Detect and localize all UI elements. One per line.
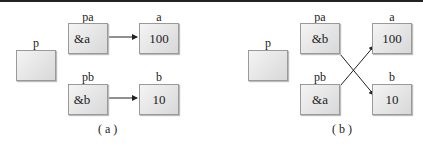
b-value: 10 [153, 92, 166, 108]
pb-box: &b [68, 84, 108, 115]
p-box [16, 50, 56, 81]
pa-box-b: &b [300, 23, 340, 54]
caption-b: ( b ) [332, 122, 352, 137]
a-box: 100 [139, 23, 179, 54]
b-label-b: b [372, 70, 412, 85]
pointer-swap-diagram: p pa &a a 100 pb &b b 10 ( a ) p pa &b a… [0, 0, 423, 148]
pb-label-b: pb [300, 70, 340, 85]
p-box-b [248, 50, 288, 81]
pb-label: pb [68, 70, 108, 85]
pa-box: &a [68, 23, 108, 54]
a-value-b: 100 [382, 31, 402, 47]
pb-box-b: &a [300, 84, 340, 115]
p-label-b: p [248, 36, 288, 51]
a-box-b: 100 [372, 23, 412, 54]
p-label: p [16, 36, 56, 51]
b-box: 10 [139, 84, 179, 115]
pb-value: &b [74, 92, 91, 108]
pb-value-b: &a [312, 92, 328, 108]
b-label: b [139, 70, 179, 85]
a-value: 100 [149, 31, 169, 47]
arrows [0, 0, 423, 148]
caption-a: ( a ) [98, 122, 117, 137]
pa-value-b: &b [312, 31, 329, 47]
b-box-b: 10 [372, 84, 412, 115]
pa-value: &a [74, 31, 90, 47]
b-value-b: 10 [386, 92, 399, 108]
